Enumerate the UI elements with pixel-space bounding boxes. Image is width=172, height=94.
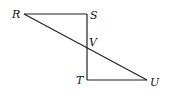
label-t: T <box>76 74 85 87</box>
label-u: U <box>150 76 160 89</box>
label-s: S <box>90 9 98 22</box>
label-v: V <box>89 36 98 49</box>
label-r: R <box>11 8 20 21</box>
segment-ru <box>24 14 147 80</box>
geometry-diagram: R S V T U <box>0 0 172 94</box>
